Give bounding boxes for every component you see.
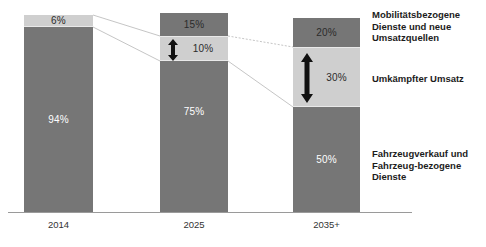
bar-2025-segment-contested[interactable]: 10% <box>160 36 228 61</box>
bar-2014[interactable]: 6% 94% <box>24 15 93 212</box>
bar-2025-segment-vehicle[interactable]: 75% <box>160 61 228 212</box>
bar-2025-segment-mobility-label: 15% <box>184 19 205 30</box>
bar-2035-segment-contested-label: 30% <box>326 72 347 83</box>
bar-2014-segment-vehicle-label: 94% <box>48 114 69 125</box>
bar-2014-segment-vehicle[interactable]: 94% <box>24 27 93 212</box>
bar-2035-segment-mobility[interactable]: 20% <box>293 18 360 47</box>
bar-2035-segment-vehicle[interactable]: 50% <box>293 107 360 212</box>
x-axis-line <box>8 212 412 213</box>
bar-2035[interactable]: 20% 30% 50% <box>293 18 360 212</box>
bar-2014-segment-contested-label: 6% <box>51 15 66 26</box>
bar-2025[interactable]: 15% 10% 75% <box>160 13 228 212</box>
chart-canvas: 6% 94% 15% 10% 75% 20% 30% <box>0 0 486 247</box>
bar-2025-segment-mobility[interactable]: 15% <box>160 13 228 36</box>
legend-item-mobility: Mobilitätsbezogene Dienste und neue Umsa… <box>372 9 486 44</box>
growth-arrow-2035-icon <box>299 53 315 103</box>
bar-2035-segment-contested[interactable]: 30% <box>293 47 360 107</box>
legend-item-contested: Umkämpfter Umsatz <box>372 73 486 85</box>
x-axis-tick-2014: 2014 <box>24 219 93 230</box>
x-axis-tick-2025: 2025 <box>160 219 228 230</box>
legend-item-vehicle: Fahrzeugverkauf und Fahrzeug-bezogene Di… <box>372 148 486 183</box>
x-axis-tick-2035: 2035+ <box>293 219 360 230</box>
bar-2025-segment-vehicle-label: 75% <box>184 106 205 117</box>
bar-2035-segment-vehicle-label: 50% <box>316 154 337 165</box>
bar-2025-segment-contested-label: 10% <box>193 43 214 54</box>
bar-2035-segment-mobility-label: 20% <box>316 27 337 38</box>
growth-arrow-2025-icon <box>166 39 180 61</box>
bar-2014-segment-contested[interactable]: 6% <box>24 15 93 27</box>
